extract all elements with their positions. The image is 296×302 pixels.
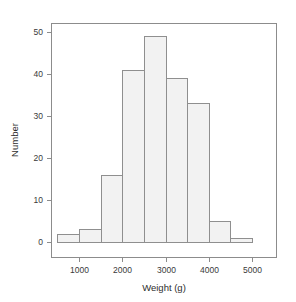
- histogram-bar: [80, 230, 102, 243]
- y-tick-label-20: 20: [34, 153, 44, 163]
- x-tick-label-3000: 3000: [157, 265, 176, 275]
- x-tick-label-4000: 4000: [200, 265, 219, 275]
- x-tick-label-1000: 1000: [70, 265, 89, 275]
- plot-canvas: 0 10 20 30 40 50 Number 1000 2000 3000 4…: [0, 0, 296, 302]
- y-axis-title: Number: [9, 123, 20, 157]
- histogram-bar: [101, 175, 123, 242]
- histogram-bar: [58, 234, 80, 242]
- y-tick-label-10: 10: [34, 195, 44, 205]
- y-tick-label-40: 40: [34, 69, 44, 79]
- y-tick-label-50: 50: [34, 27, 44, 37]
- x-axis-title: Weight (g): [142, 282, 186, 293]
- histogram-bar: [188, 104, 210, 243]
- y-tick-label-30: 30: [34, 111, 44, 121]
- y-tick-label-0: 0: [38, 237, 43, 247]
- x-tick-label-2000: 2000: [113, 265, 132, 275]
- histogram-bar: [209, 222, 231, 243]
- histogram-bar: [166, 79, 188, 243]
- histogram-figure: 0 10 20 30 40 50 Number 1000 2000 3000 4…: [0, 0, 296, 302]
- x-tick-label-5000: 5000: [243, 265, 262, 275]
- histogram-bar: [231, 238, 253, 242]
- histogram-bar: [144, 37, 166, 243]
- histogram-bar: [123, 70, 145, 242]
